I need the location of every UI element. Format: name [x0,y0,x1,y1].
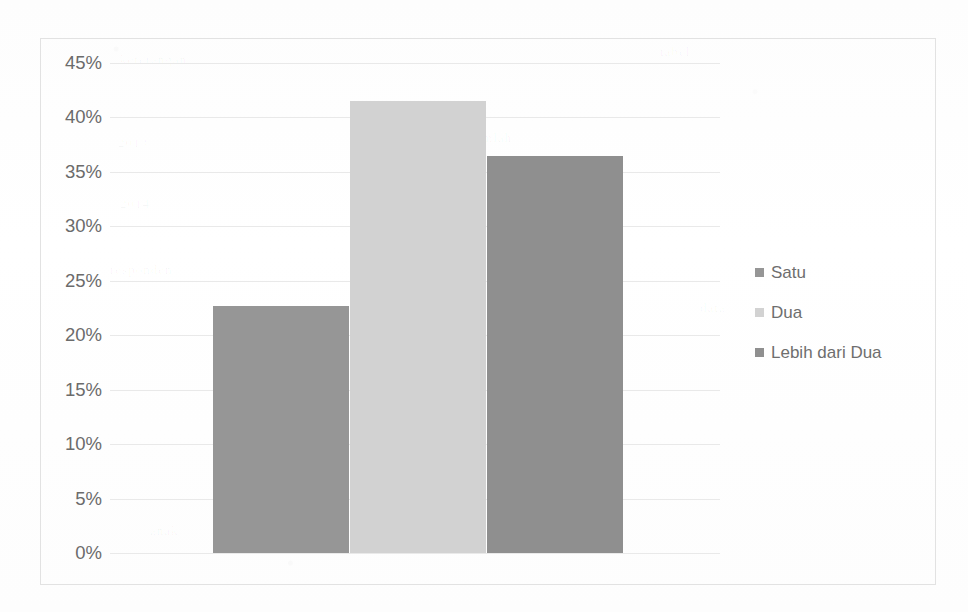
y-axis-tick-label: 5% [40,489,102,508]
plot-area [110,63,720,553]
legend-item-lebih-dari-dua[interactable]: Lebih dari Dua [755,332,930,372]
bar-dua[interactable] [350,101,486,553]
legend-swatch-icon [755,268,764,277]
y-axis-tick-label: 45% [40,54,102,73]
legend-item-label: Satu [771,264,806,281]
bar-satu[interactable] [213,306,349,553]
y-axis-tick-label: 40% [40,108,102,127]
legend-item-label: Dua [771,304,802,321]
y-axis: 45%40%35%30%25%20%15%10%5%0% [40,63,102,553]
y-axis-tick-label: 20% [40,326,102,345]
y-axis-tick-label: 0% [40,544,102,563]
legend-item-label: Lebih dari Dua [771,344,882,361]
gridline [110,553,720,554]
y-axis-tick-label: 35% [40,163,102,182]
y-axis-tick-label: 10% [40,435,102,454]
legend-item-satu[interactable]: Satu [755,252,930,292]
chart-legend: SatuDuaLebih dari Dua [755,252,930,372]
bar-lebih-dari-dua[interactable] [487,156,623,553]
legend-swatch-icon [755,348,764,357]
legend-item-dua[interactable]: Dua [755,292,930,332]
y-axis-tick-label: 30% [40,217,102,236]
legend-swatch-icon [755,308,764,317]
gridline [110,63,720,64]
y-axis-tick-label: 15% [40,380,102,399]
y-axis-tick-label: 25% [40,272,102,291]
